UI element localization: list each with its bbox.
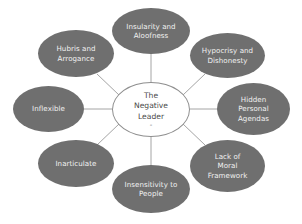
node-center-the-negative-leader[interactable]: The Negative Leader - — [112, 82, 190, 137]
node-label: Hubris and Arrogance — [51, 44, 100, 62]
node-hypocrisy-and-dishonesty[interactable]: Hypocrisy and Dishonesty — [190, 33, 265, 78]
node-hubris-and-arrogance[interactable]: Hubris and Arrogance — [38, 30, 114, 77]
connector-center-to-hubris — [97, 74, 119, 95]
center-sub-mark: - — [129, 122, 173, 128]
node-label: Lack of Moral Framework — [203, 152, 253, 180]
node-label: The Negative Leader — [129, 91, 173, 122]
connector-center-to-inarticulate — [97, 124, 119, 145]
node-label: Insularity and Aloofness — [121, 22, 180, 40]
node-inflexible[interactable]: Inflexible — [13, 86, 84, 132]
node-insensitivity-to-people[interactable]: Insensitivity to People — [112, 165, 190, 213]
node-insularity-and-aloofness[interactable]: Insularity and Aloofness — [112, 8, 190, 54]
connector-center-to-lack-of-moral — [183, 124, 205, 145]
node-label: Inflexible — [27, 104, 70, 113]
node-label: Insensitivity to People — [120, 180, 183, 198]
node-inarticulate[interactable]: Inarticulate — [38, 140, 114, 187]
node-label: Hypocrisy and Dishonesty — [197, 46, 258, 64]
node-label: Hidden Personal Agendas — [233, 95, 274, 123]
node-hidden-personal-agendas[interactable]: Hidden Personal Agendas — [217, 83, 290, 135]
node-label: Inarticulate — [50, 159, 101, 168]
negative-leader-diagram: Insularity and Aloofness Hypocrisy and D… — [0, 0, 302, 224]
connector-center-to-hypocrisy — [183, 74, 205, 95]
node-lack-of-moral-framework[interactable]: Lack of Moral Framework — [190, 140, 265, 192]
center-label-group: The Negative Leader - — [129, 91, 173, 128]
